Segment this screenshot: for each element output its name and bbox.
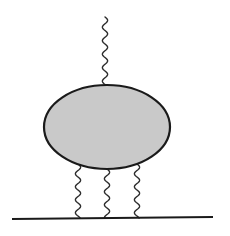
feynman-diagram	[0, 0, 230, 236]
interaction-blob	[44, 85, 170, 169]
